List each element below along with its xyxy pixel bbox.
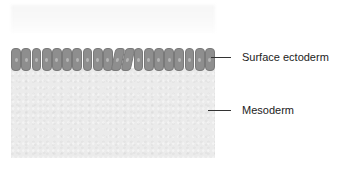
nucleus <box>45 58 48 62</box>
surface-ectoderm-layer <box>11 48 215 71</box>
nucleus <box>25 58 28 62</box>
ectoderm-cell <box>72 48 82 71</box>
nucleus <box>147 58 150 62</box>
nucleus <box>86 58 89 62</box>
nucleus <box>116 58 120 62</box>
mesoderm-layer <box>11 68 215 158</box>
nucleus <box>198 58 201 62</box>
ectoderm-cell <box>144 48 154 71</box>
nucleus <box>35 58 38 62</box>
faded-background-region <box>11 5 215 33</box>
nucleus <box>66 58 69 62</box>
ectoderm-cell <box>52 48 62 71</box>
ectoderm-cell <box>134 48 144 71</box>
mesoderm-label: Mesoderm <box>242 104 294 116</box>
nucleus <box>15 58 18 62</box>
ectoderm-cell <box>195 48 205 71</box>
surface-ectoderm-leader-line <box>211 57 231 58</box>
nucleus <box>55 58 58 62</box>
ectoderm-cell <box>21 48 31 71</box>
nucleus <box>208 58 211 62</box>
ectoderm-cell <box>11 48 21 71</box>
ectoderm-cell <box>205 48 215 71</box>
nucleus <box>188 58 191 62</box>
nucleus <box>178 58 181 62</box>
mesoderm-leader-line <box>208 110 231 111</box>
nucleus <box>126 58 130 62</box>
ectoderm-cell <box>174 48 184 71</box>
ectoderm-cell <box>62 48 72 71</box>
ectoderm-cell <box>93 48 103 71</box>
nucleus <box>106 58 109 62</box>
ectoderm-cell <box>154 48 164 71</box>
nucleus <box>76 58 79 62</box>
ectoderm-cell <box>185 48 195 71</box>
ectoderm-cell <box>32 48 42 71</box>
nucleus <box>157 58 160 62</box>
ectoderm-cell <box>83 48 93 71</box>
nucleus <box>96 58 99 62</box>
surface-ectoderm-label: Surface ectoderm <box>242 51 329 63</box>
nucleus <box>137 58 140 62</box>
ectoderm-cell <box>164 48 174 71</box>
ectoderm-cell <box>42 48 52 71</box>
nucleus <box>168 58 171 62</box>
